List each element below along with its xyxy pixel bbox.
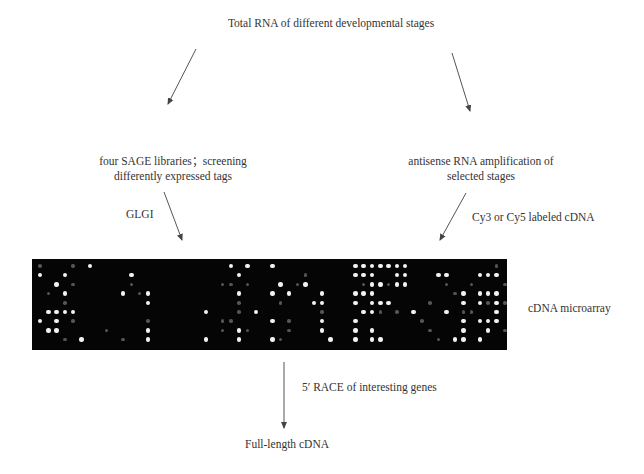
microarray-spot-bright <box>478 337 483 342</box>
final-node-full-length-cdna: Full-length cDNA <box>242 437 332 452</box>
arrow-total-to-antisense <box>452 53 470 111</box>
microarray-spot-bright <box>237 291 242 296</box>
microarray-spot-bright <box>436 273 441 278</box>
microarray-spot-bright <box>494 291 499 296</box>
microarray-spot-dim <box>470 283 474 287</box>
microarray-spot-bright <box>63 310 68 315</box>
microarray-spot-dim <box>320 310 324 314</box>
microarray-spot-dim <box>420 319 424 323</box>
microarray-spot-bright <box>494 273 499 278</box>
microarray-spot-dim <box>503 283 507 287</box>
left-step-line2: differently expressed tags <box>88 169 258 184</box>
microarray-spot-bright <box>411 310 416 315</box>
microarray-spot-bright <box>486 273 491 278</box>
microarray-spot-bright <box>121 291 126 296</box>
microarray-spot-dim <box>287 329 291 333</box>
microarray-spot-bright <box>353 319 358 324</box>
microarray-spot-bright <box>444 310 449 315</box>
connector-arrows <box>0 0 644 474</box>
microarray-spot-bright <box>353 291 358 296</box>
microarray-spot-bright <box>461 319 466 324</box>
microarray-spot-dim <box>453 292 457 296</box>
microarray-spot-bright <box>361 291 366 296</box>
microarray-spot-dim <box>71 264 75 268</box>
right-step-line1: antisense RNA amplification of <box>396 154 566 169</box>
microarray-spot-bright <box>54 310 59 315</box>
microarray-spot-bright <box>237 273 242 278</box>
microarray-spot-bright <box>395 273 400 278</box>
microarray-spot-dim <box>71 283 75 287</box>
microarray-spot-bright <box>361 310 366 315</box>
microarray-spot-bright <box>370 273 375 278</box>
microarray-spot-bright <box>370 282 375 287</box>
microarray-spot-bright <box>38 319 43 324</box>
microarray-spot-bright <box>312 301 317 306</box>
microarray-spot-bright <box>370 328 375 333</box>
microarray-spot-dim <box>428 329 432 333</box>
microarray-spot-dim <box>495 264 499 268</box>
microarray-spot-dim <box>296 283 300 287</box>
microarray-spot-bright <box>403 273 408 278</box>
microarray-spot-bright <box>395 264 400 269</box>
microarray-spot-bright <box>254 310 259 315</box>
microarray-spot-dim <box>130 283 134 287</box>
microarray-spot-bright <box>54 282 59 287</box>
microarray-spot-bright <box>453 337 458 342</box>
microarray-spot-dim <box>63 301 67 305</box>
microarray-spot-dim <box>362 283 366 287</box>
microarray-spot-bright <box>278 282 283 287</box>
microarray-spot-bright <box>486 291 491 296</box>
microarray-spot-bright <box>353 337 358 342</box>
right-arrow-label-cy3-cy5: Cy3 or Cy5 labeled cDNA <box>472 210 595 225</box>
microarray-spot-bright <box>370 301 375 306</box>
microarray-spot-dim <box>47 292 51 296</box>
microarray-spot-dim <box>287 319 291 323</box>
microarray-spot-dim <box>246 329 250 333</box>
microarray-spot-bright <box>378 301 383 306</box>
microarray-spot-bright <box>361 264 366 269</box>
microarray-spot-dim <box>63 338 67 342</box>
microarray-spot-bright <box>494 319 499 324</box>
arrow-antisense-to-array <box>440 193 466 240</box>
microarray-spot-dim <box>470 310 474 314</box>
microarray-spot-bright <box>146 328 151 333</box>
microarray-spot-bright <box>270 291 275 296</box>
microarray-spot-bright <box>370 310 375 315</box>
microarray-spot-bright <box>486 319 491 324</box>
microarray-spot-bright <box>320 291 325 296</box>
microarray-spot-dim <box>105 329 109 333</box>
microarray-spot-bright <box>204 337 209 342</box>
microarray-spot-bright <box>229 264 234 269</box>
microarray-spot-bright <box>88 264 93 269</box>
left-arrow-label-glgi: GLGI <box>126 207 153 222</box>
microarray-spot-dim <box>221 329 225 333</box>
microarray-spot-dim <box>387 283 391 287</box>
microarray-spot-bright <box>478 301 483 306</box>
microarray-spot-bright <box>237 328 242 333</box>
microarray-spot-dim <box>221 319 225 323</box>
microarray-spot-dim <box>38 264 42 268</box>
microarray-spot-bright <box>395 282 400 287</box>
microarray-spot-bright <box>403 264 408 269</box>
microarray-spot-dim <box>486 301 490 305</box>
microarray-spot-bright <box>461 337 466 342</box>
microarray-spot-dim <box>121 338 125 342</box>
microarray-spot-dim <box>246 283 250 287</box>
microarray-spot-bright <box>146 337 151 342</box>
microarray-label: cDNA microarray <box>528 301 611 316</box>
microarray-spot-bright <box>370 291 375 296</box>
microarray-spot-dim <box>221 283 225 287</box>
microarray-spot-bright <box>461 328 466 333</box>
microarray-spot-bright <box>245 264 250 269</box>
microarray-spot-bright <box>378 337 383 342</box>
microarray-spot-bright <box>353 273 358 278</box>
microarray-spot-bright <box>461 301 466 306</box>
microarray-spot-bright <box>38 273 43 278</box>
microarray-spot-dim <box>379 310 383 314</box>
bottom-arrow-label-race: 5′ RACE of interesting genes <box>302 380 437 395</box>
microarray-spot-bright <box>386 301 391 306</box>
microarray-spot-bright <box>237 337 242 342</box>
microarray-spot-bright <box>494 301 499 306</box>
microarray-spot-dim <box>138 292 142 296</box>
cdna-microarray-image <box>32 259 507 350</box>
